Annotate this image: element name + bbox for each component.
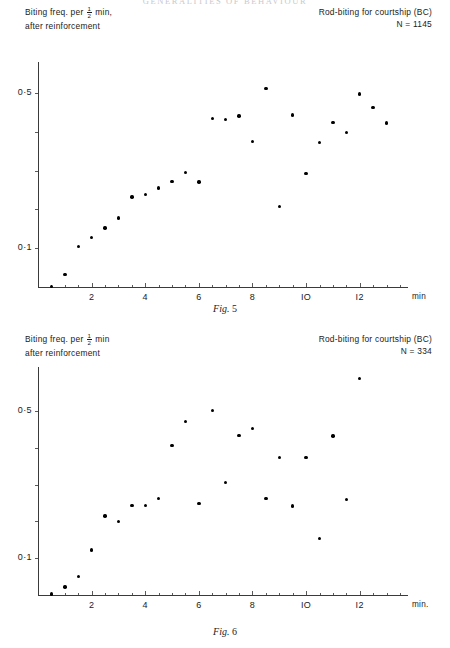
fig6-x-tick (199, 591, 200, 595)
data-point (291, 113, 294, 116)
fig6-x-tick-minor (266, 593, 267, 596)
fig5-x-tick-minor (266, 285, 267, 288)
data-point (345, 131, 348, 134)
data-point (170, 444, 173, 447)
data-point (90, 548, 93, 551)
data-point (331, 121, 334, 124)
fig6-x-tick (145, 591, 146, 595)
fig6-y-tick (35, 411, 38, 412)
fig5-x-tick-minor (132, 285, 133, 288)
fig5-x-tick-label: 6 (184, 292, 214, 302)
fig6-x-tick-minor (346, 593, 347, 596)
fig6-caption: Fig. 6 (0, 626, 450, 637)
fig6-x-tick-minor (105, 593, 106, 596)
fig6-caption-label: Fig. (213, 626, 229, 637)
fig6-y-tick (35, 448, 38, 449)
fig6-x-tick-minor (320, 593, 321, 596)
fig5-y-tick (35, 209, 38, 210)
data-point (144, 193, 147, 196)
fig5-x-tick (92, 283, 93, 287)
fig5-x-tick (306, 283, 307, 287)
data-point (90, 236, 93, 239)
fig5-caption-label: Fig. (213, 303, 229, 314)
fig5-caption-number: 5 (232, 303, 237, 314)
fig6-x-axis-unit: min. (412, 600, 429, 609)
data-point (385, 121, 388, 124)
data-point (117, 216, 120, 219)
data-point (144, 504, 147, 507)
data-point (50, 592, 53, 595)
fig5-x-tick-minor (159, 285, 160, 288)
fig6-y-tick (35, 558, 38, 559)
fig6-x-tick-label: 8 (237, 600, 267, 610)
data-point (224, 118, 227, 121)
fig6-x-tick-label: IO (291, 600, 321, 610)
fig5-x-tick-label: 2 (77, 292, 107, 302)
fig5-x-tick-minor (293, 285, 294, 288)
data-point (358, 377, 361, 380)
data-point (304, 456, 307, 459)
fig5-y-tick (35, 248, 38, 249)
data-point (278, 456, 281, 459)
fig5-y-tick (35, 132, 38, 133)
fig5-x-tick-minor (387, 285, 388, 288)
fig6-x-tick-minor (118, 593, 119, 596)
fig5-x-tick-minor (65, 285, 66, 288)
fig5-x-tick-minor (373, 285, 374, 288)
data-point (77, 575, 80, 578)
fig5-y-tick (35, 171, 38, 172)
data-point (157, 497, 160, 500)
fig5-y-tick-label: 0·1 (4, 242, 32, 252)
data-point (237, 114, 240, 117)
fig5-x-tick-minor (105, 285, 106, 288)
data-point (103, 226, 106, 229)
data-point (318, 141, 321, 144)
data-point (197, 180, 200, 183)
fig5-x-tick (199, 283, 200, 287)
data-point (371, 106, 374, 109)
fig5-x-tick-minor (226, 285, 227, 288)
fig6-x-tick-minor (279, 593, 280, 596)
data-point (318, 537, 321, 540)
data-point (63, 585, 66, 588)
fig5-x-tick-minor (279, 285, 280, 288)
fig5-x-tick-minor (212, 285, 213, 288)
fig5-x-tick-minor (320, 285, 321, 288)
fig6-y-tick-label: 0·1 (4, 552, 32, 562)
data-point (130, 504, 133, 507)
fig6-x-tick-minor (387, 593, 388, 596)
data-point (63, 273, 66, 276)
data-point (211, 409, 214, 412)
fig5-x-tick (252, 283, 253, 287)
fig5-x-tick-minor (78, 285, 79, 288)
data-point (77, 245, 80, 248)
fig6-x-tick (252, 591, 253, 595)
fig5-y-tick (35, 93, 38, 94)
fig5-x-tick-minor (333, 285, 334, 288)
fig5-y-tick-label: 0·5 (4, 87, 32, 97)
fig6-x-tick-label: 2 (77, 600, 107, 610)
fig5-x-tick-minor (172, 285, 173, 288)
data-point (130, 195, 133, 198)
fig6-x-tick-label: 6 (184, 600, 214, 610)
data-point (251, 427, 254, 430)
fig5-x-tick-label: IO (291, 292, 321, 302)
fig6-x-tick-minor (212, 593, 213, 596)
fig5-x-axis (38, 287, 408, 288)
data-point (224, 481, 227, 484)
data-point (304, 172, 307, 175)
figure-6: Biting freq. per 1 2 min after reinforce… (0, 327, 450, 648)
fig6-x-tick-minor (333, 593, 334, 596)
fig6-x-tick-minor (172, 593, 173, 596)
fig6-plot-area: 0·10·52468IOI2min. (0, 327, 450, 623)
fig5-x-tick-minor (346, 285, 347, 288)
page-root: GENERALITIES OF BEHAVIOUR Biting freq. p… (0, 0, 450, 648)
data-point (291, 504, 294, 507)
data-point (184, 420, 187, 423)
fig6-x-axis (38, 595, 408, 596)
fig6-y-tick (35, 521, 38, 522)
fig6-x-tick-minor (159, 593, 160, 596)
data-point (117, 520, 120, 523)
fig5-x-tick-label: I2 (345, 292, 375, 302)
data-point (264, 87, 267, 90)
